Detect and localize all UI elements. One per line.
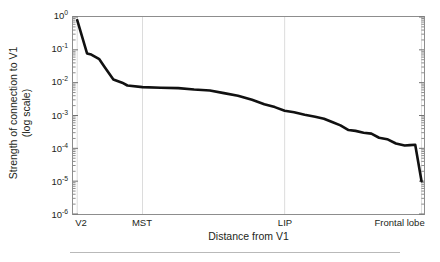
x-axis-title: Distance from V1 (72, 230, 425, 242)
figure-log-connection-strength: Strength of connection to V1 (log scale)… (0, 0, 440, 262)
y-axis-tick-label: 10-4 (40, 144, 68, 154)
x-axis-tick-label: LIP (278, 217, 292, 228)
y-axis-title: Strength of connection to V1 (log scale) (0, 0, 40, 225)
y-axis-tick-label: 10-1 (40, 44, 68, 54)
y-axis-tick-label: 10-6 (40, 210, 68, 220)
y-axis-tick-label: 10-3 (40, 111, 68, 121)
data-series-line (73, 17, 424, 214)
x-axis-tick-label: MST (132, 217, 152, 228)
connection-strength-line (77, 20, 421, 181)
y-axis-tick-labels: 10010-110-210-310-410-510-6 (36, 0, 68, 262)
x-axis-tick-label: V2 (75, 217, 87, 228)
x-axis-tick-label: Frontal lobe (375, 217, 425, 228)
y-axis-title-line-1: Strength of connection to V1 (7, 46, 20, 179)
y-axis-tick-label: 10-2 (40, 77, 68, 87)
plot-area (72, 16, 425, 215)
figure-bottom-rule (70, 252, 400, 253)
y-axis-tick-label: 100 (40, 11, 68, 21)
y-axis-tick-label: 10-5 (40, 177, 68, 187)
y-axis-title-line-2: (log scale) (20, 46, 33, 179)
